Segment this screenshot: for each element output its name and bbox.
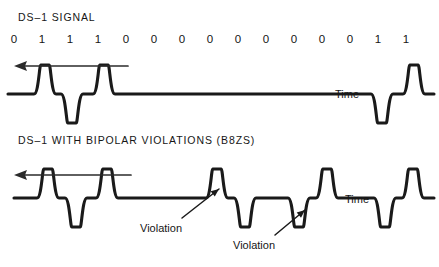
bottom-panel-title: DS–1 WITH BIPOLAR VIOLATIONS (B8ZS) [18, 134, 255, 146]
ds1-signal-waveform [8, 65, 434, 123]
ds1-b8zs-waveform-figure: DS–1 SIGNAL 011100000000011 Time DS–1 WI… [0, 0, 439, 267]
b8zs-signal-waveform [14, 169, 434, 227]
top-time-direction-arrow [14, 61, 128, 71]
top-time-axis-label: Time [335, 88, 359, 100]
violation-label-1: Violation [140, 222, 182, 234]
bottom-time-axis-label: Time [345, 193, 369, 205]
violation-label-2: Violation [233, 239, 275, 251]
